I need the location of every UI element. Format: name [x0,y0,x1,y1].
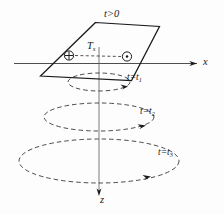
z-axis-label-text: z [100,194,104,205]
circle-dot-center [126,55,129,58]
z-axis-label: z [100,195,104,206]
wavefront-1-subscript: 1 [139,76,142,83]
surface-current-connector [75,56,121,57]
wavefront-3-subscript: 3 [170,151,173,158]
physics-diagram-figure: t>0 Ts x z t=t1 t=t2 t=t3 [0,0,224,214]
surface-current-subscript: s [93,45,96,52]
current-out-of-page-symbol [122,52,131,61]
current-into-page-symbol [64,51,73,60]
surface-current-label: Ts [87,41,96,52]
wavefront-3-text: t=t [158,147,170,157]
wavefront-2-label: t=t2 [140,107,155,117]
diagram-canvas [0,0,224,214]
wavefront-2-text: t=t [140,106,152,116]
sheet-time-label: t>0 [104,9,119,20]
sheet-time-text: t>0 [104,8,119,19]
current-sheet-outline [41,23,160,81]
x-axis-label-text: x [203,56,208,67]
wavefront-1-text: t=t [127,72,139,82]
current-sheet [41,23,160,81]
surface-current-symbol: T [87,40,93,51]
z-axis [97,47,102,196]
x-axis-label: x [203,57,208,68]
wavefront-1-direction-arrow [121,85,129,90]
x-axis [14,61,197,66]
wavefront-3-label: t=t3 [158,148,173,158]
wavefront-2-subscript: 2 [152,110,155,117]
wavefront-1-label: t=t1 [127,73,142,83]
